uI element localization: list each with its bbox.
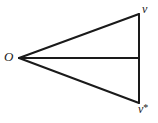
vertex-label-origin: O [4, 50, 13, 63]
figure-canvas [0, 0, 158, 123]
vertex-label-v: v [142, 3, 147, 15]
segment-lower-ray [19, 58, 139, 103]
geometry-figure: O v v* [0, 0, 158, 123]
vertex-label-v-star: v* [138, 103, 148, 115]
segment-upper-ray [19, 14, 139, 58]
asterisk-icon: * [143, 102, 148, 113]
